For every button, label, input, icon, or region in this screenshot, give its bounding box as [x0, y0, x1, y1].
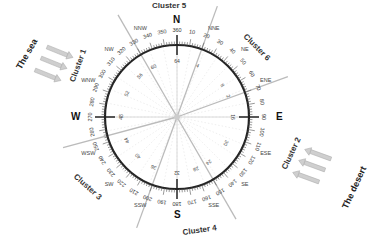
inner-value: 48	[118, 114, 124, 120]
degree-label: 70	[254, 83, 262, 91]
inner-value: 36	[149, 163, 157, 171]
tick	[227, 63, 229, 66]
degree-label: 60	[248, 70, 256, 78]
intercardinal-label: SSW	[134, 202, 147, 208]
intercardinal-label: NNE	[208, 25, 220, 31]
degree-label: 220	[116, 178, 127, 189]
degree-label: 300	[97, 68, 107, 79]
tick	[245, 142, 252, 144]
degree-label: 270	[87, 112, 93, 121]
tick	[245, 90, 252, 92]
intercardinal-label: NNW	[134, 25, 148, 31]
grid-line	[163, 117, 177, 188]
degree-label: 230	[105, 167, 116, 178]
degree-label: 180	[172, 201, 181, 207]
degree-label: 240	[97, 155, 107, 166]
tick	[125, 63, 127, 66]
grid-line	[110, 117, 177, 145]
intercardinal-label: SSE	[208, 202, 219, 208]
inner-value: 60	[150, 63, 158, 71]
tick	[213, 49, 217, 55]
desert-arrows	[291, 146, 332, 186]
degree-label: 210	[128, 187, 139, 197]
tick	[150, 43, 152, 50]
degree-label: 350	[157, 28, 167, 36]
intercardinal-label: ENE	[260, 77, 272, 83]
tick	[163, 39, 164, 46]
grid-line	[177, 66, 228, 117]
tick	[103, 90, 110, 92]
south-label: S	[174, 209, 181, 220]
grid-line	[110, 89, 177, 117]
tick	[109, 153, 115, 157]
tick	[248, 130, 255, 131]
intercardinal-label: WNW	[81, 77, 96, 83]
degree-label: 310	[105, 56, 116, 67]
degree-label: 90	[261, 114, 267, 120]
tick	[229, 65, 232, 67]
degree-label: 100	[258, 127, 266, 137]
inner-value: 32	[174, 170, 180, 176]
center-point	[174, 114, 180, 120]
degree-label: 190	[157, 198, 167, 206]
degree-label: 80	[259, 98, 266, 105]
tick	[103, 142, 110, 144]
grid-line	[177, 117, 205, 184]
tick	[123, 65, 126, 67]
intercardinal-label: SW	[105, 181, 115, 187]
tick	[99, 103, 106, 104]
grid-line	[177, 117, 237, 157]
inner-value: 24	[205, 159, 213, 167]
east-label: E	[276, 111, 283, 122]
grid-line	[177, 46, 191, 117]
tick	[248, 103, 255, 104]
degree-label: 140	[227, 178, 238, 189]
degree-label: 20	[203, 32, 211, 40]
inner-value: 8	[219, 82, 226, 88]
degree-label: 150	[215, 187, 226, 197]
grid-line	[126, 117, 177, 168]
degree-label: 120	[247, 155, 257, 166]
tick	[213, 179, 217, 185]
degree-label: 260	[88, 127, 96, 137]
inner-value: 64	[174, 58, 180, 64]
tick	[163, 188, 164, 195]
west-label: W	[71, 111, 80, 122]
intercardinal-label: NW	[105, 46, 115, 52]
inner-value: 56	[136, 71, 144, 79]
intercardinal-label: NE	[241, 46, 249, 52]
grid-line	[106, 103, 177, 117]
grid-line	[117, 117, 177, 157]
degree-label: 30	[216, 38, 224, 46]
tick	[229, 167, 232, 169]
tick	[125, 169, 127, 172]
degree-label: 170	[187, 198, 197, 206]
grid-line	[177, 103, 248, 117]
tick	[202, 43, 204, 50]
grid-line	[177, 117, 191, 188]
tick	[202, 185, 204, 192]
degree-label: 320	[116, 45, 127, 56]
cluster-5-label: Cluster 5	[152, 1, 186, 10]
grid-line	[177, 117, 244, 145]
inner-value: 16	[230, 114, 236, 120]
tick	[190, 188, 191, 195]
inner-value: 52	[123, 89, 131, 97]
cluster-boundary-line	[137, 117, 177, 228]
degree-label: 10	[188, 28, 195, 35]
tick	[150, 185, 152, 192]
grid-line	[106, 117, 177, 131]
degree-label: 280	[88, 97, 96, 107]
degree-label: 340	[142, 31, 153, 40]
inner-value: 30	[222, 139, 230, 147]
degree-label: 130	[238, 167, 249, 178]
tick	[138, 179, 142, 185]
tick	[190, 39, 191, 46]
grid-line	[177, 117, 248, 131]
degree-label: 290	[91, 82, 100, 93]
grid-line	[137, 57, 177, 117]
tick	[109, 78, 115, 82]
north-label: N	[173, 14, 180, 25]
tick	[99, 130, 106, 131]
